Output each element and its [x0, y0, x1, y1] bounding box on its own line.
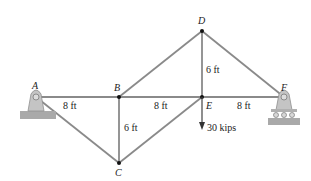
node-label-D: D — [197, 15, 206, 26]
node-label-B: B — [114, 82, 120, 93]
load-arrow-icon — [199, 97, 205, 130]
joint-C — [117, 161, 121, 165]
truss-members — [36, 31, 284, 163]
load-label: 30 kips — [207, 122, 236, 133]
node-label-A: A — [31, 80, 39, 91]
truss-diagram: A B C D E F 8 ft 8 ft 8 ft 6 ft 6 ft 30 … — [0, 0, 311, 181]
roller-support-icon — [268, 90, 300, 125]
node-label-F: F — [280, 82, 288, 93]
dimension-BC: 6 ft — [124, 122, 138, 133]
member-AC — [36, 97, 119, 163]
pin-support-icon — [20, 90, 56, 119]
joint-D — [200, 29, 204, 33]
member-BD — [119, 31, 202, 97]
dimension-AB: 8 ft — [63, 100, 77, 111]
dimension-DE: 6 ft — [206, 64, 220, 75]
dimension-BE: 8 ft — [154, 100, 168, 111]
node-label-C: C — [115, 167, 122, 178]
dimension-EF: 8 ft — [237, 100, 251, 111]
joint-B — [117, 95, 121, 99]
node-label-E: E — [205, 100, 212, 111]
